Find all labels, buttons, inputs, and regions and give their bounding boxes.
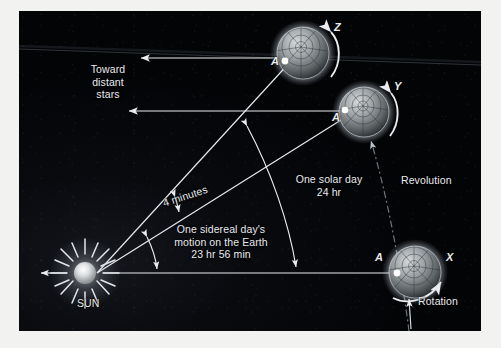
earth-x-axis-label: X [446,251,453,264]
diagram-vector-layer [19,11,481,331]
one-sidereal-day-label: One sidereal day's motion on the Earth 2… [147,223,295,261]
one-solar-day-label: One solar day 24 hr [281,173,377,198]
earth-x-point-a-label: A [375,251,383,264]
diagram-panel: Toward distant stars 4 minutes One solar… [19,11,481,331]
toward-distant-stars-label: Toward distant stars [77,63,139,101]
figure-container: Toward distant stars 4 minutes One solar… [0,0,501,348]
earth-z-point-a-label: A [271,55,279,68]
earth-x-point-a-marker [394,270,401,277]
earth-globe-z[interactable] [270,20,336,86]
earth-z-point-a-marker [282,58,289,65]
earth-globe-y[interactable] [332,80,396,144]
sun-label: SUN [77,297,99,310]
revolution-label: Revolution [401,174,452,187]
rotation-label: Rotation [418,295,458,308]
earth-z-axis-label: Z [334,21,341,34]
earth-y-point-a-marker [342,107,349,114]
earth-y-axis-label: Y [394,80,401,93]
earth-y-point-a-label: A [332,111,340,124]
